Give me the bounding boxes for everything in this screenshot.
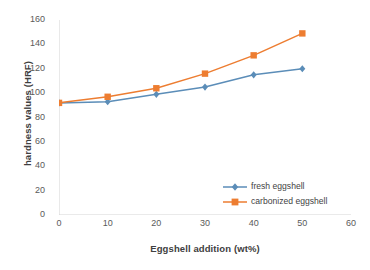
data-point-marker (251, 71, 257, 78)
legend-label: carbonized eggshell (251, 197, 327, 206)
x-tick-label: 30 (190, 219, 220, 228)
legend-marker (232, 198, 239, 205)
y-tick-label: 100 (11, 88, 45, 97)
legend-swatch-icon (222, 181, 248, 193)
x-tick-label: 50 (287, 219, 317, 228)
y-tick-label: 40 (11, 161, 45, 170)
series-line-1 (59, 33, 302, 102)
legend-marker (232, 183, 238, 191)
data-point-marker (250, 52, 256, 58)
legend-item-carbonized-eggshell[interactable]: carbonized eggshell (222, 194, 327, 209)
y-tick-label: 20 (11, 186, 45, 195)
data-point-marker (104, 94, 110, 100)
x-tick-label: 10 (93, 219, 123, 228)
x-axis-title: Eggshell addition (wt%) (60, 243, 350, 254)
data-point-marker (202, 83, 208, 90)
hardness-vs-eggshell-line-chart: hardness values (HRF) 160140120100806040… (0, 0, 370, 270)
x-tick-label: 60 (336, 219, 366, 228)
x-tick-label: 20 (141, 219, 171, 228)
legend-swatch-icon (222, 196, 248, 208)
data-point-marker (59, 100, 62, 106)
data-point-marker (299, 30, 305, 36)
x-tick-label: 40 (239, 219, 269, 228)
data-point-marker (202, 70, 208, 76)
legend-item-fresh-eggshell[interactable]: fresh eggshell (222, 179, 327, 194)
legend-label: fresh eggshell (251, 182, 305, 191)
data-point-marker (299, 65, 305, 72)
y-tick-label: 60 (11, 137, 45, 146)
y-tick-label: 0 (11, 210, 45, 219)
y-tick-label: 160 (11, 15, 45, 24)
y-tick-label: 80 (11, 113, 45, 122)
y-tick-label: 140 (11, 39, 45, 48)
chart-legend: fresh eggshellcarbonized eggshell (222, 179, 327, 209)
data-point-marker (153, 85, 159, 91)
x-tick-label: 0 (44, 219, 74, 228)
data-point-marker (153, 91, 159, 98)
y-tick-label: 120 (11, 64, 45, 73)
